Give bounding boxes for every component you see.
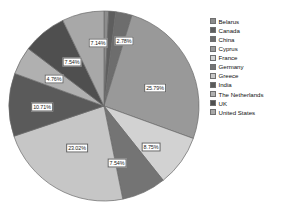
- legend-item-germany[interactable]: Germany: [210, 62, 298, 71]
- pie-chart-figure: 2.78% 25.79% 8.75% 7.54% 23.02% 10.71% 4…: [0, 0, 301, 208]
- legend-item-the-netherlands[interactable]: The Netherlands: [210, 90, 298, 99]
- legend-swatch-icon: [210, 82, 216, 88]
- slice-label-china: 2.78%: [115, 37, 134, 46]
- legend-item-label: France: [219, 54, 238, 61]
- legend-item-united-states[interactable]: United States: [210, 108, 298, 117]
- legend-item-label: China: [219, 36, 235, 43]
- slice-label-india: 10.71%: [31, 103, 53, 112]
- legend-item-france[interactable]: France: [210, 53, 298, 62]
- legend-item-label: United States: [219, 109, 256, 116]
- legend-item-label: Germany: [219, 63, 244, 70]
- legend-item-label: The Netherlands: [219, 91, 264, 98]
- slice-label-netherlands: 4.76%: [45, 75, 64, 84]
- legend-item-label: Canada: [219, 27, 240, 34]
- legend-swatch-icon: [210, 91, 216, 97]
- slice-label-greece: 23.02%: [66, 144, 88, 153]
- legend-swatch-icon: [210, 27, 216, 33]
- slice-label-uk: 7.54%: [63, 58, 82, 67]
- legend-item-label: Belarus: [219, 18, 240, 25]
- legend-item-label: Greece: [219, 72, 239, 79]
- legend-swatch-icon: [210, 36, 216, 42]
- slice-label-france: 8.75%: [142, 143, 161, 152]
- legend-item-belarus[interactable]: Belarus: [210, 17, 298, 26]
- legend: BelarusCanadaChinaCyprusFranceGermanyGre…: [210, 17, 298, 117]
- legend-item-china[interactable]: China: [210, 35, 298, 44]
- legend-item-india[interactable]: India: [210, 81, 298, 90]
- slice-label-united-states: 7.14%: [89, 39, 108, 48]
- legend-swatch-icon: [210, 18, 216, 24]
- slice-label-cyprus: 25.79%: [144, 84, 166, 93]
- legend-item-uk[interactable]: UK: [210, 99, 298, 108]
- legend-swatch-icon: [210, 55, 216, 61]
- legend-item-label: Cyprus: [219, 45, 238, 52]
- legend-swatch-icon: [210, 100, 216, 106]
- legend-item-label: UK: [219, 100, 227, 107]
- legend-item-label: India: [219, 81, 232, 88]
- legend-swatch-icon: [210, 73, 216, 79]
- legend-swatch-icon: [210, 109, 216, 115]
- legend-item-canada[interactable]: Canada: [210, 26, 298, 35]
- legend-swatch-icon: [210, 64, 216, 70]
- legend-item-cyprus[interactable]: Cyprus: [210, 44, 298, 53]
- legend-swatch-icon: [210, 46, 216, 52]
- legend-item-greece[interactable]: Greece: [210, 72, 298, 81]
- slice-label-germany: 7.54%: [108, 159, 127, 168]
